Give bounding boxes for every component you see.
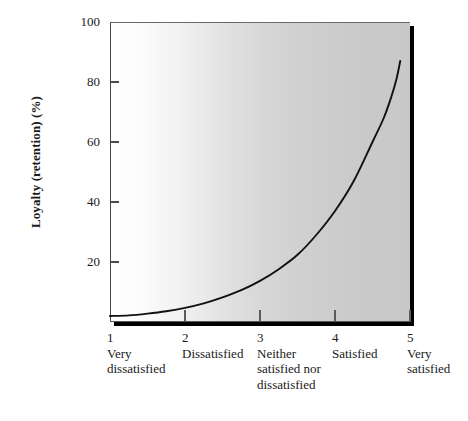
x-category-description: Very dissatisfied (107, 346, 166, 377)
x-category-description: Satisfied (332, 346, 378, 362)
loyalty-retention-chart: Loyalty (retention) (%) 10080604020 1Ver… (0, 0, 468, 421)
x-category-3: 3Neither satisfied nor dissatisfied (257, 330, 321, 392)
x-category-number: 4 (332, 330, 378, 346)
x-tick-mark (409, 310, 410, 321)
y-tick-mark (110, 261, 119, 262)
loyalty-curve-path (110, 61, 400, 316)
y-tick-label: 80 (66, 75, 100, 88)
y-tick-mark (110, 141, 119, 142)
y-axis-title: Loyalty (retention) (%) (24, 12, 48, 312)
x-category-4: 4Satisfied (332, 330, 378, 361)
x-category-description: Neither satisfied nor dissatisfied (257, 346, 321, 393)
y-tick-label: 20 (66, 255, 100, 268)
y-tick-label: 40 (66, 195, 100, 208)
x-category-1: 1Very dissatisfied (107, 330, 166, 377)
loyalty-curve-svg (110, 22, 410, 322)
y-tick-mark (110, 81, 119, 82)
x-category-2: 2Dissatisfied (182, 330, 243, 361)
y-tick-label: 100 (66, 15, 100, 28)
x-category-5: 5Very satisfied (407, 330, 450, 377)
x-category-number: 2 (182, 330, 243, 346)
x-tick-mark (259, 310, 260, 321)
x-category-number: 1 (107, 330, 166, 346)
x-category-description: Dissatisfied (182, 346, 243, 362)
x-category-description: Very satisfied (407, 346, 450, 377)
y-tick-label: 60 (66, 135, 100, 148)
y-tick-mark (110, 201, 119, 202)
x-category-number: 3 (257, 330, 321, 346)
x-tick-mark (184, 310, 185, 321)
x-tick-mark (334, 310, 335, 321)
x-category-number: 5 (407, 330, 450, 346)
